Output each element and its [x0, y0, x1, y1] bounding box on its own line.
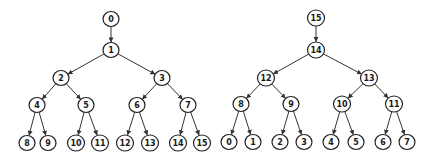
right-tree-nodes: 1514121389101101234567 [221, 10, 415, 150]
nodes-layer: 0123456789101112131415151412138910110123… [19, 10, 415, 151]
edge-2-to-5 [66, 84, 80, 100]
tree-node: 4 [29, 98, 45, 113]
tree-node: 13 [361, 70, 378, 86]
node-label: 3 [159, 74, 165, 83]
tree-node: 8 [19, 136, 35, 151]
tree-node: 14 [170, 135, 187, 151]
node-label: 9 [288, 100, 294, 109]
edge-2-to-4 [42, 84, 56, 99]
edge-14-to-12 [273, 54, 309, 74]
edge-1-to-2 [68, 54, 104, 74]
node-label: 5 [353, 138, 359, 147]
tree-node: 15 [194, 135, 211, 151]
edge-3-to-7 [167, 83, 182, 99]
node-label: 6 [380, 138, 386, 147]
edge-5-to-11 [89, 112, 97, 135]
node-label: 2 [277, 138, 283, 147]
node-label: 0 [226, 138, 232, 147]
tree-node: 6 [129, 98, 145, 113]
node-label: 9 [45, 139, 51, 148]
edge-6-to-12 [128, 112, 135, 135]
tree-node: 5 [78, 98, 94, 113]
node-label: 3 [301, 138, 307, 147]
edge-5-to-10 [78, 112, 84, 135]
edge-3-to-6 [142, 84, 156, 100]
edge-12-to-8 [247, 84, 261, 98]
node-label: 4 [328, 138, 334, 147]
edge-4-to-8 [29, 112, 35, 135]
node-label: 13 [144, 139, 155, 148]
tree-node: 5 [348, 135, 364, 150]
edge-13-to-10 [348, 84, 363, 99]
tree-node: 12 [258, 70, 275, 86]
edge-14-to-13 [323, 54, 361, 74]
tree-node: 0 [103, 12, 119, 27]
node-label: 7 [185, 101, 191, 110]
node-label: 12 [119, 139, 130, 148]
diagram-svg: 0123456789101112131415151412138910110123… [0, 0, 431, 162]
edge-4-to-9 [39, 112, 46, 135]
node-label: 6 [134, 101, 140, 110]
node-label: 13 [363, 74, 374, 83]
tree-node: 7 [399, 135, 415, 150]
node-label: 11 [388, 100, 400, 109]
edge-1-to-3 [118, 54, 155, 75]
tree-node: 10 [334, 96, 351, 112]
node-label: 10 [336, 100, 348, 109]
node-label: 10 [70, 139, 82, 148]
tree-node: 11 [92, 135, 109, 151]
edge-11-to-6 [385, 112, 392, 135]
node-label: 14 [310, 46, 322, 55]
node-label: 7 [404, 138, 410, 147]
edge-11-to-7 [397, 112, 405, 135]
tree-node: 4 [323, 135, 339, 150]
edge-13-to-11 [375, 84, 389, 98]
node-label: 1 [250, 138, 256, 147]
node-label: 15 [196, 139, 208, 148]
edge-12-to-9 [272, 84, 286, 98]
tree-node: 6 [375, 135, 391, 150]
edge-8-to-0 [231, 111, 238, 134]
edge-10-to-4 [333, 112, 340, 135]
tree-node: 11 [386, 96, 403, 112]
tree-node: 9 [40, 136, 56, 151]
tree-node: 12 [117, 135, 134, 151]
node-label: 2 [58, 74, 64, 83]
node-label: 1 [108, 46, 114, 55]
edge-6-to-13 [139, 112, 147, 135]
edge-9-to-3 [293, 111, 301, 134]
node-label: 8 [24, 139, 30, 148]
tree-node: 1 [103, 43, 119, 58]
edges-layer [29, 26, 404, 135]
node-label: 14 [172, 139, 184, 148]
node-label: 8 [238, 100, 244, 109]
edge-7-to-14 [180, 112, 186, 135]
tree-node: 1 [245, 135, 261, 150]
tree-node: 15 [308, 10, 325, 26]
edge-8-to-1 [243, 111, 250, 134]
tree-node: 14 [308, 42, 325, 58]
node-label: 15 [310, 14, 322, 23]
node-label: 5 [83, 101, 89, 110]
edge-7-to-15 [191, 112, 199, 135]
node-label: 11 [94, 139, 106, 148]
edge-9-to-2 [282, 111, 289, 134]
tree-node: 2 [53, 71, 69, 86]
tree-node: 10 [68, 135, 85, 151]
tree-node: 3 [154, 71, 170, 86]
tree-node: 7 [180, 98, 196, 113]
tree-node: 0 [221, 135, 237, 150]
tree-node: 9 [283, 97, 299, 112]
edge-10-to-5 [345, 112, 353, 135]
tree-node: 13 [142, 135, 159, 151]
node-label: 12 [260, 74, 271, 83]
node-label: 4 [34, 101, 40, 110]
tree-node: 8 [233, 97, 249, 112]
tree-diagram: 0123456789101112131415151412138910110123… [0, 0, 431, 162]
tree-node: 2 [272, 135, 288, 150]
tree-node: 3 [296, 135, 312, 150]
node-label: 0 [108, 15, 114, 24]
